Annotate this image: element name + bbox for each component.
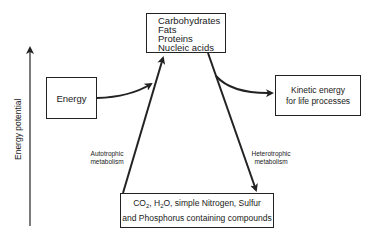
kinetic-output-arrow [216,76,272,93]
simple-compounds-box: CO2, H2O, simple Nitrogen, Sulfur and Ph… [120,193,274,228]
energy-input-arrow [97,84,151,98]
heterotrophic-line2: metabolism [246,158,296,166]
energy-text: Energy [56,93,86,104]
bottom-line1: CO2, H2O, simple Nitrogen, Sulfur [133,197,261,212]
autotrophic-label: Autotrophic metabolism [82,150,132,166]
kinetic-energy-box: Kinetic energy for life processes [275,75,361,116]
nucleic-acids-text: Nucleic acids [158,43,225,52]
h2o-prefix: , H [149,198,160,208]
autotrophic-arrow [123,58,163,193]
bottom-line2: and Phosphorus containing compounds [122,212,271,224]
autotrophic-line1: Autotrophic [82,150,132,158]
co2-text: CO [133,198,146,208]
heterotrophic-arrow [208,53,256,190]
heterotrophic-label: Heterotrophic metabolism [246,150,296,166]
kinetic-line2: for life processes [286,96,350,107]
autotrophic-line2: metabolism [82,158,132,166]
heterotrophic-line1: Heterotrophic [246,150,296,158]
energy-potential-label: Energy potential [13,99,23,160]
biomolecules-box: Carbohydrates Fats Proteins Nucleic acid… [146,13,226,53]
h2o-suffix: O, simple Nitrogen, Sulfur [163,198,260,208]
kinetic-line1: Kinetic energy [291,85,345,96]
energy-box: Energy [46,77,97,119]
